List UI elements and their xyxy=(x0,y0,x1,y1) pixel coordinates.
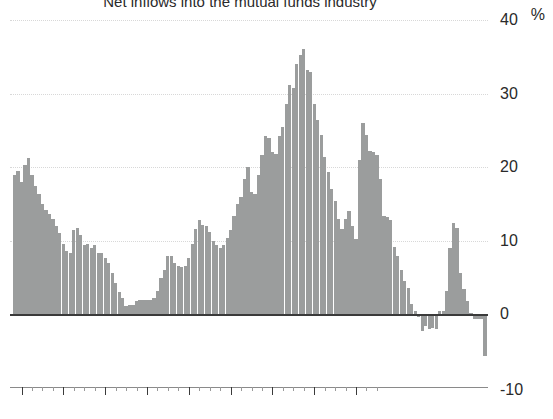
x-axis-minor-tick xyxy=(157,387,158,391)
x-axis-major-tick xyxy=(356,387,357,395)
x-axis-minor-tick xyxy=(262,387,263,391)
x-axis-minor-tick xyxy=(283,387,284,391)
x-axis-major-tick xyxy=(314,387,315,395)
x-axis-minor-tick xyxy=(53,387,54,391)
x-axis-minor-tick xyxy=(74,387,75,391)
x-axis-minor-tick xyxy=(84,387,85,391)
x-axis-major-tick xyxy=(105,387,106,395)
x-axis-minor-tick xyxy=(126,387,127,391)
bar xyxy=(435,314,438,329)
x-axis-minor-tick xyxy=(293,387,294,391)
y-axis-tick-label: 40 xyxy=(500,11,518,29)
x-axis-minor-tick xyxy=(366,387,367,391)
x-axis-major-tick xyxy=(231,387,232,395)
x-axis-minor-tick xyxy=(241,387,242,391)
x-axis-minor-tick xyxy=(346,387,347,391)
x-axis-minor-tick xyxy=(325,387,326,391)
x-axis-minor-tick xyxy=(137,387,138,391)
x-axis-minor-tick xyxy=(335,387,336,391)
y-axis-tick-label: 10 xyxy=(500,232,518,250)
x-axis-major-tick xyxy=(189,387,190,395)
x-axis-minor-tick xyxy=(178,387,179,391)
x-axis-major-tick xyxy=(63,387,64,395)
y-axis-tick-label: 20 xyxy=(500,158,518,176)
x-axis-minor-tick xyxy=(95,387,96,391)
x-axis-line xyxy=(10,387,488,388)
x-axis-major-tick xyxy=(147,387,148,395)
x-axis-minor-tick xyxy=(210,387,211,391)
x-axis-minor-tick xyxy=(304,387,305,391)
x-axis-minor-tick xyxy=(168,387,169,391)
x-axis-minor-tick xyxy=(377,387,378,391)
plot-area xyxy=(10,20,488,388)
zero-baseline xyxy=(10,314,488,316)
chart-figure: Net inflows into the mutual funds indust… xyxy=(0,0,553,419)
y-axis-label-negative: -10 xyxy=(500,381,523,399)
x-axis-major-tick xyxy=(22,387,23,395)
x-axis-minor-tick xyxy=(116,387,117,391)
bar-series xyxy=(10,20,488,388)
x-axis-minor-tick xyxy=(42,387,43,391)
x-axis xyxy=(10,387,488,419)
y-axis-tick-label: 30 xyxy=(500,85,518,103)
y-axis-tick-label: 0 xyxy=(500,305,509,323)
x-axis-major-tick xyxy=(272,387,273,395)
x-axis-minor-tick xyxy=(220,387,221,391)
x-axis-minor-tick xyxy=(252,387,253,391)
x-axis-minor-tick xyxy=(199,387,200,391)
bar xyxy=(483,314,486,356)
y-axis-unit-label: % xyxy=(531,6,545,24)
x-axis-minor-tick xyxy=(32,387,33,391)
chart-title: Net inflows into the mutual funds indust… xyxy=(0,0,480,10)
